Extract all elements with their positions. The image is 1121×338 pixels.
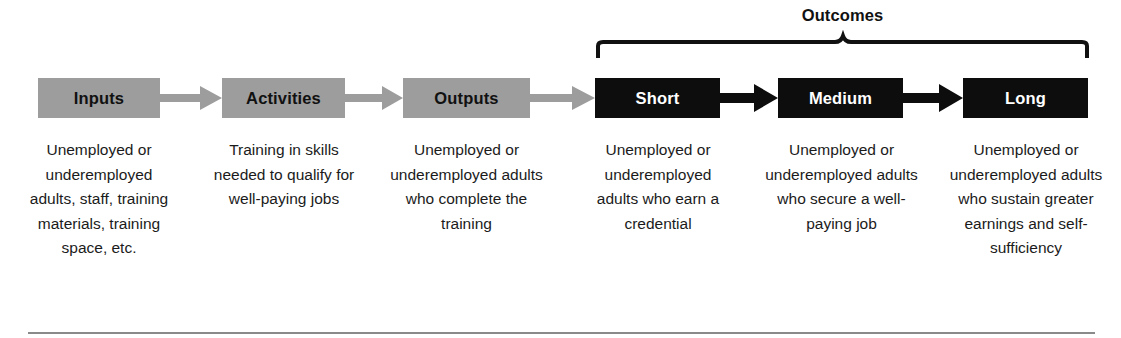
stage-box-medium-label: Medium (809, 89, 872, 108)
stage-box-outputs-label: Outputs (434, 89, 498, 108)
stage-box-short[interactable]: Short (595, 78, 720, 118)
stage-box-short-label: Short (636, 89, 680, 108)
stage-box-inputs[interactable]: Inputs (38, 78, 160, 118)
stage-box-activities[interactable]: Activities (222, 78, 345, 118)
stage-box-long-label: Long (1005, 89, 1046, 108)
arrow-medium-to-long (903, 84, 963, 112)
stage-description-inputs: Unemployed or underemployed adults, staf… (24, 138, 174, 261)
outcomes-label: Outcomes (595, 6, 1090, 25)
stage-box-long[interactable]: Long (963, 78, 1088, 118)
footer-divider (28, 332, 1095, 334)
stage-box-inputs-label: Inputs (74, 89, 124, 108)
arrow-short-to-medium (720, 84, 778, 112)
arrow-inputs-to-activities (160, 84, 222, 112)
outcomes-bracket-group: Outcomes (595, 6, 1090, 66)
stage-description-medium: Unemployed or underemployed adults who s… (760, 138, 923, 236)
logic-model-diagram: Outcomes Inputs Activities Outputs Short (0, 0, 1121, 338)
stage-description-long: Unemployed or underemployed adults who s… (945, 138, 1107, 261)
arrow-activities-to-outputs (345, 84, 403, 112)
stage-box-activities-label: Activities (246, 89, 321, 108)
stage-description-short: Unemployed or underemployed adults who e… (583, 138, 733, 236)
stage-box-outputs[interactable]: Outputs (403, 78, 530, 118)
curly-bracket-icon (595, 30, 1090, 58)
stage-description-activities: Training in skills needed to qualify for… (204, 138, 364, 212)
stage-description-outputs: Unemployed or underemployed adults who c… (388, 138, 545, 236)
stage-box-medium[interactable]: Medium (778, 78, 903, 118)
arrow-outputs-to-short (530, 84, 595, 112)
